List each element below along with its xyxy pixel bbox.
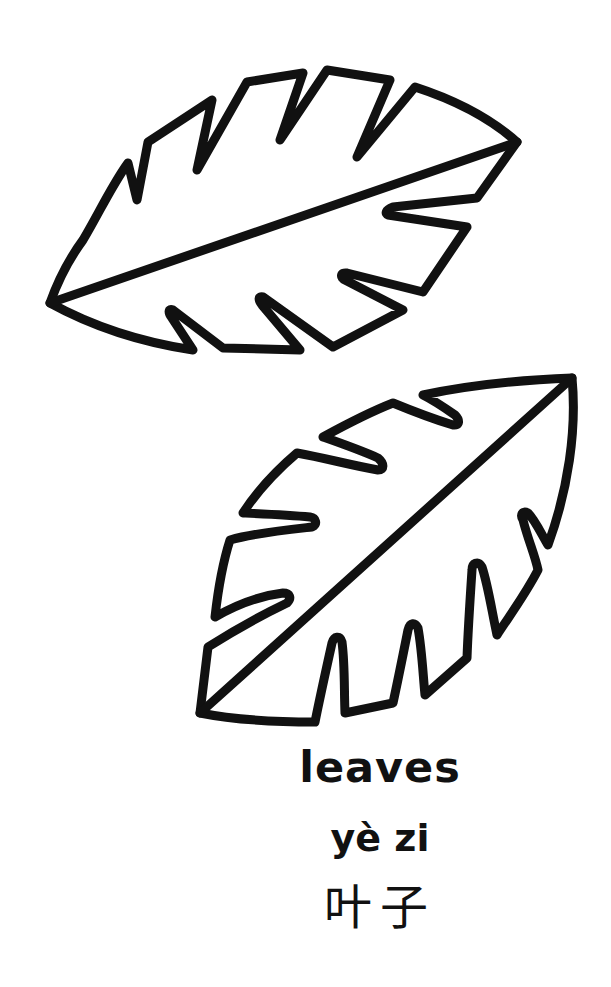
pinyin-word: yè zi [280, 816, 480, 860]
top-leaf [50, 70, 517, 350]
chinese-word: 叶子 [280, 868, 480, 938]
bottom-leaf [200, 378, 573, 722]
english-word: leaves [280, 742, 480, 792]
top-leaf-outline [50, 70, 517, 350]
